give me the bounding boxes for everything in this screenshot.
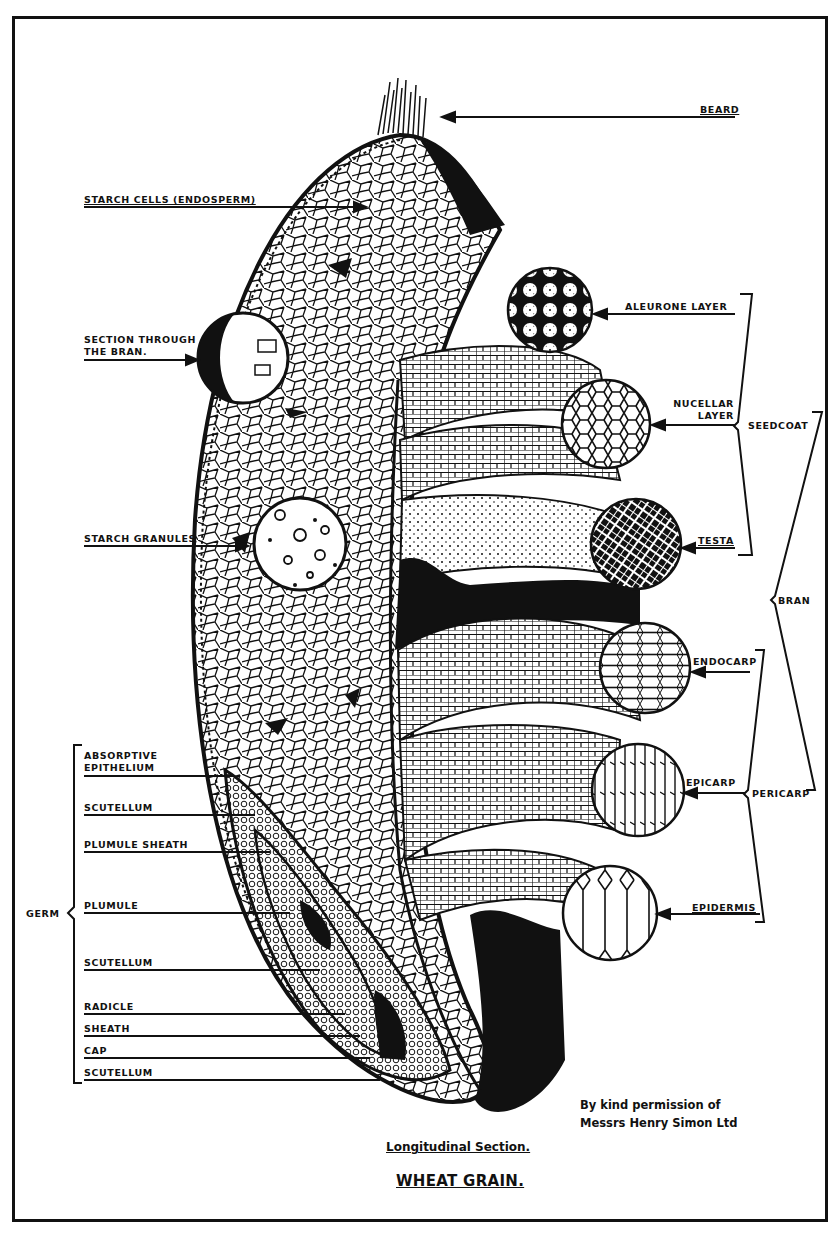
diagram-title: WHEAT GRAIN.: [396, 1172, 524, 1190]
label-nucellar-2: LAYER: [668, 410, 734, 421]
label-plumule-sheath: PLUMULE SHEATH: [84, 839, 188, 850]
circle-nucellar: [562, 380, 650, 468]
label-starch-cells: STARCH CELLS (ENDOSPERM): [84, 194, 256, 205]
label-epicarp: EPICARP: [686, 777, 736, 788]
label-endocarp: ENDOCARP: [693, 656, 757, 667]
label-absorptive-1: ABSORPTIVE: [84, 750, 158, 761]
circle-starch-granules: [254, 498, 346, 590]
label-plumule: PLUMULE: [84, 900, 138, 911]
credit-line-1: By kind permission of: [580, 1096, 738, 1114]
label-seedcoat: SEEDCOAT: [748, 420, 808, 431]
label-section-bran-2: THE BRAN.: [84, 346, 147, 357]
label-pericarp: PERICARP: [752, 788, 810, 799]
beard-bristles: [378, 78, 426, 137]
label-bran: BRAN: [778, 595, 810, 606]
label-scutellum-1: SCUTELLUM: [84, 802, 153, 813]
label-nucellar-1: NUCELLAR: [668, 398, 734, 409]
label-starch-granules: STARCH GRANULES: [84, 533, 196, 544]
circle-aleurone: [508, 268, 592, 352]
label-radicle: RADICLE: [84, 1001, 134, 1012]
label-beard: BEARD: [700, 104, 739, 115]
credit-line-2: Messrs Henry Simon Ltd: [580, 1114, 738, 1132]
label-testa: TESTA: [698, 535, 734, 546]
credit-text: By kind permission of Messrs Henry Simon…: [580, 1096, 738, 1132]
label-sheath: SHEATH: [84, 1023, 130, 1034]
label-epidermis: EPIDERMIS: [692, 902, 756, 913]
circle-epidermis: [563, 866, 657, 960]
label-germ: GERM: [26, 908, 59, 919]
label-cap: CAP: [84, 1045, 107, 1056]
label-absorptive-2: EPITHELIUM: [84, 762, 155, 773]
circle-endocarp: [600, 623, 690, 713]
circle-epicarp: [592, 744, 684, 836]
label-aleurone-layer: ALEURONE LAYER: [625, 301, 727, 312]
wheat-grain-illustration: [0, 0, 838, 1241]
label-scutellum-3: SCUTELLUM: [84, 1067, 153, 1078]
label-scutellum-2: SCUTELLUM: [84, 957, 153, 968]
diagram-subtitle: Longitudinal Section.: [386, 1140, 530, 1154]
circle-testa: [591, 499, 681, 589]
label-section-bran-1: SECTION THROUGH: [84, 334, 196, 345]
